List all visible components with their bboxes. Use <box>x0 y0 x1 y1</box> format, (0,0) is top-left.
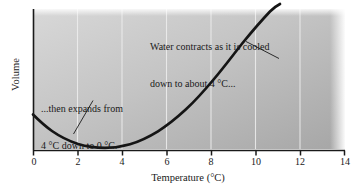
x-tick-label-8: 8 <box>196 156 226 168</box>
annotation-contracts-line-2: down to about 4 °C... <box>150 78 269 90</box>
y-axis-title: Volume <box>10 44 23 104</box>
x-tick-label-2: 2 <box>63 156 93 168</box>
x-tick-label-12: 12 <box>285 156 315 168</box>
x-tick-label-4: 4 <box>107 156 137 168</box>
x-tick-label-6: 6 <box>152 156 182 168</box>
x-tick-label-14: 14 <box>330 156 360 168</box>
x-tick-label-0: 0 <box>19 156 49 168</box>
volume-vs-temperature-figure: Water contracts as it is cooled down to … <box>0 0 360 192</box>
panel-edge-fade-right <box>330 9 345 149</box>
annotation-expands-line-2: 4 °C down to 0 °C. <box>41 140 123 152</box>
annotation-contracts-line-1: Water contracts as it is cooled <box>150 41 269 53</box>
panel-edge-fade-top <box>33 9 345 16</box>
x-tick-label-10: 10 <box>241 156 271 168</box>
annotation-water-contracts: Water contracts as it is cooled down to … <box>150 17 269 115</box>
x-axis-title: Temperature (°C) <box>32 172 344 185</box>
annotation-expands-line-1: ...then expands from <box>41 103 123 115</box>
